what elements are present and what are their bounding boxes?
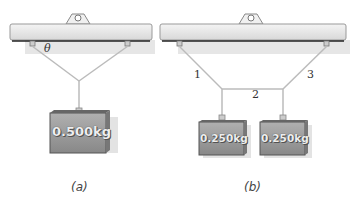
diagram-canvas bbox=[0, 0, 353, 205]
string-label-1: 1 bbox=[194, 68, 201, 81]
caption-b: (b) bbox=[244, 180, 261, 194]
mass-label-a: 0.500kg bbox=[52, 124, 111, 139]
string-label-2: 2 bbox=[252, 88, 259, 101]
support-beam bbox=[10, 24, 152, 40]
angle-theta-label: θ bbox=[44, 42, 51, 55]
string-label-3: 3 bbox=[307, 68, 314, 81]
support-beam bbox=[160, 24, 346, 40]
panel-b bbox=[160, 14, 350, 158]
caption-a: (a) bbox=[71, 180, 88, 194]
mass-label-b-right: 0.250kg bbox=[261, 132, 309, 144]
mass-label-b-left: 0.250kg bbox=[200, 132, 248, 144]
